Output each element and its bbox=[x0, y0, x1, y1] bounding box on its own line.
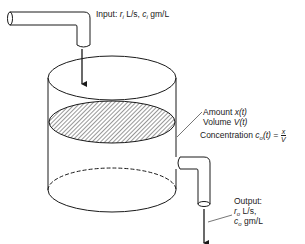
output-title: Output: bbox=[234, 196, 262, 206]
output-rate: ro L/s, bbox=[234, 206, 256, 216]
volume-text: Volume bbox=[203, 117, 231, 127]
input-label: Input: ri L/s, ci gm/L bbox=[96, 9, 169, 19]
concentration-text: Concentration bbox=[200, 130, 253, 140]
tank-diagram bbox=[0, 0, 305, 244]
output-label-leader bbox=[208, 215, 232, 222]
input-rate-sub: i bbox=[123, 14, 124, 20]
input-prefix: Input: bbox=[96, 9, 117, 19]
fraction-numerator: x bbox=[281, 128, 287, 136]
input-conc-sub: i bbox=[147, 14, 148, 20]
output-conc-sub: o bbox=[238, 221, 241, 227]
tank-bottom-back bbox=[48, 168, 176, 190]
concentration-label: Concentration co(t) = x V bbox=[200, 128, 286, 143]
tank-label-leader bbox=[177, 112, 202, 137]
volume-label: Volume V(t) bbox=[203, 117, 247, 127]
fraction-denominator: V bbox=[281, 136, 287, 143]
amount-expr: x(t) bbox=[235, 107, 247, 117]
input-conc-unit: gm/L bbox=[150, 9, 169, 19]
amount-label: Amount x(t) bbox=[203, 107, 247, 117]
input-rate-unit: L/s, bbox=[126, 9, 140, 19]
output-conc-unit: gm/L bbox=[244, 216, 263, 226]
input-pipe bbox=[8, 12, 91, 47]
output-rate-unit: L/s, bbox=[243, 206, 257, 216]
output-conc: co gm/L bbox=[234, 216, 263, 226]
amount-text: Amount bbox=[203, 107, 232, 117]
output-pipe bbox=[178, 157, 210, 207]
tank-bottom-front bbox=[48, 190, 176, 212]
concentration-arg: (t) = bbox=[263, 130, 278, 140]
concentration-fraction: x V bbox=[281, 128, 287, 143]
liquid-surface bbox=[49, 101, 175, 143]
tank-top-rim bbox=[48, 56, 176, 100]
volume-expr: V(t) bbox=[234, 117, 248, 127]
